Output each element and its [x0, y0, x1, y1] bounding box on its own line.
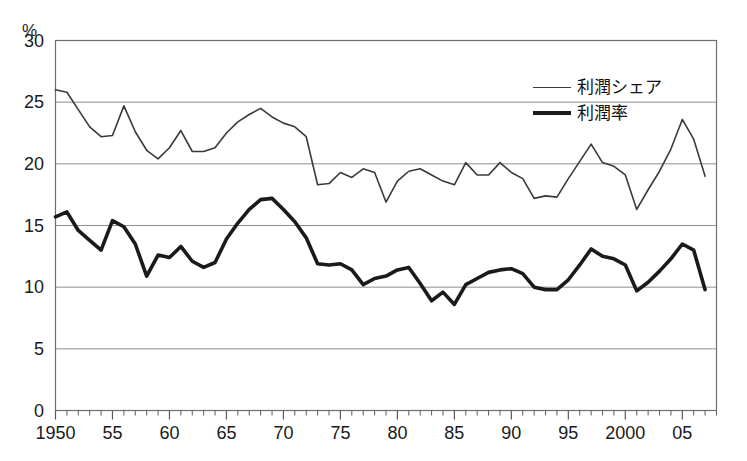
legend-item-profit-rate: 利潤率 — [533, 100, 703, 126]
legend-label-profit-share: 利潤シェア — [577, 78, 662, 97]
x-tick-label-05: 05 — [647, 424, 717, 442]
legend-line-thin-icon — [533, 87, 571, 88]
x-axis-tick-labels: 1950556065707580859095200005 — [0, 0, 747, 461]
chart-legend: 利潤シェア 利潤率 — [533, 74, 703, 126]
legend-line-thick-icon — [533, 111, 571, 115]
legend-item-profit-share: 利潤シェア — [533, 74, 703, 100]
legend-label-profit-rate: 利潤率 — [577, 104, 628, 123]
profit-share-rate-line-chart: % 051015202530 1950556065707580859095200… — [0, 0, 747, 461]
